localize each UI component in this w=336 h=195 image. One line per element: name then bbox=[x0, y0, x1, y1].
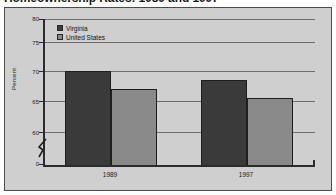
bar-united-states-1989[interactable] bbox=[111, 89, 157, 166]
legend-swatch-virginia bbox=[57, 25, 63, 31]
legend-swatch-united-states bbox=[57, 34, 63, 40]
x-category-label-1989: 1989 bbox=[88, 171, 132, 179]
legend-item-united-states[interactable]: United States bbox=[57, 33, 105, 41]
y-tick-label-80: 80 bbox=[13, 16, 39, 22]
x-axis-line bbox=[43, 165, 315, 167]
y-tick-label-0: 0 bbox=[13, 161, 39, 167]
chart-frame: 80 75 70 65 60 0 Percent Virgin bbox=[4, 7, 332, 191]
legend-item-virginia[interactable]: Virginia bbox=[57, 24, 105, 32]
y-tick-label-60: 60 bbox=[13, 130, 39, 136]
x-category-label-1997: 1997 bbox=[224, 171, 268, 179]
bars-layer bbox=[43, 19, 315, 166]
page-title: Homeownership Rates: 1989 and 1997 bbox=[4, 0, 219, 5]
legend-label-virginia: Virginia bbox=[66, 25, 88, 32]
axis-break-icon bbox=[38, 138, 51, 158]
bar-virginia-1989[interactable] bbox=[65, 71, 111, 166]
bar-united-states-1997[interactable] bbox=[247, 98, 293, 166]
legend-label-united-states: United States bbox=[66, 34, 105, 41]
legend: Virginia United States bbox=[57, 24, 105, 41]
x-axis-end-tick bbox=[313, 160, 315, 167]
y-tick-label-75: 75 bbox=[13, 40, 39, 46]
page-title-strip: Homeownership Rates: 1989 and 1997 bbox=[0, 0, 336, 6]
y-axis-title: Percent bbox=[11, 54, 17, 104]
bar-virginia-1997[interactable] bbox=[201, 80, 247, 166]
